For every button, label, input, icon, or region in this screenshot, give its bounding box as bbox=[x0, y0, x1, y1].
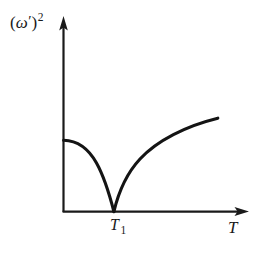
y-label-exponent: 2 bbox=[37, 11, 43, 23]
y-axis-label: (ω′)2 bbox=[10, 12, 43, 31]
t1-subscript: 1 bbox=[119, 224, 126, 236]
curve-branch-above-t1 bbox=[114, 118, 218, 211]
figure-canvas bbox=[0, 0, 266, 254]
curve-branch-below-t1 bbox=[64, 140, 114, 211]
x-axis-tick-label-t1: T1 bbox=[110, 217, 126, 237]
y-label-variable: ω bbox=[16, 13, 28, 32]
x-label-variable: T bbox=[228, 218, 237, 237]
t1-variable: T bbox=[110, 216, 119, 233]
physics-figure: (ω′)2 T T1 bbox=[0, 0, 266, 254]
x-axis-label: T bbox=[228, 219, 237, 236]
